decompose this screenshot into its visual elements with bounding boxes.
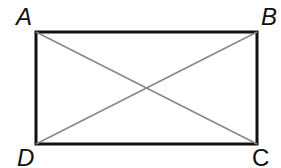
- rectangle-diagram: A B C D: [0, 0, 281, 168]
- vertex-label-a: A: [14, 3, 32, 30]
- vertex-label-c: C: [252, 144, 269, 168]
- vertex-label-b: B: [261, 3, 277, 30]
- vertex-label-d: D: [17, 144, 34, 168]
